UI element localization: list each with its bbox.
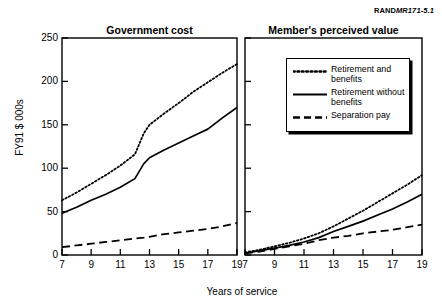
series-line	[62, 64, 237, 200]
legend: Retirement and benefits Retirement witho…	[286, 58, 410, 132]
series-line	[245, 194, 422, 253]
legend-swatch-solid	[293, 92, 327, 96]
figure-container: RANDMR171-5.1 Government cost Member's p…	[0, 0, 442, 308]
legend-swatch-dotted	[293, 69, 327, 73]
panel-government-cost	[62, 38, 237, 255]
series-line	[245, 175, 422, 252]
legend-label: Retirement without benefits	[331, 88, 415, 107]
plot-svg	[0, 0, 442, 308]
series-line	[62, 107, 237, 213]
legend-label: Separation pay	[331, 111, 415, 121]
series-line	[62, 223, 237, 247]
series-line	[245, 225, 422, 254]
legend-label: Retirement and benefits	[331, 65, 415, 84]
legend-swatch-dashed	[293, 115, 327, 119]
